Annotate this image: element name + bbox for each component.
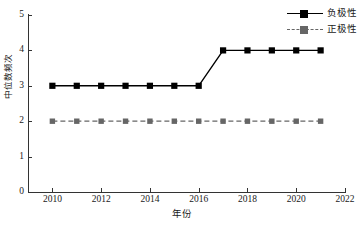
data-point	[50, 119, 55, 124]
data-point	[74, 83, 80, 89]
data-point	[244, 47, 250, 53]
legend-item-negative-polarity[interactable]: 负极性	[287, 8, 357, 19]
legend-label-negative-polarity: 负极性	[327, 8, 357, 19]
chart-legend: 负极性 正极性	[287, 8, 357, 35]
legend-swatch-positive-polarity	[287, 24, 323, 35]
data-point	[269, 47, 275, 53]
data-point	[122, 83, 128, 89]
data-point	[172, 119, 177, 124]
data-series-layer	[0, 0, 363, 234]
data-point	[318, 47, 324, 53]
data-point	[171, 83, 177, 89]
data-point	[147, 119, 152, 124]
series-positive-polarity	[50, 119, 324, 124]
data-point	[123, 119, 128, 124]
data-point	[147, 83, 153, 89]
data-point	[74, 119, 79, 124]
data-point	[49, 83, 55, 89]
data-point	[318, 119, 323, 124]
legend-item-positive-polarity[interactable]: 正极性	[287, 24, 357, 35]
series-line	[52, 50, 320, 85]
data-point	[220, 47, 226, 53]
data-point	[98, 83, 104, 89]
data-point	[245, 119, 250, 124]
data-point	[196, 83, 202, 89]
series-negative-polarity	[49, 47, 323, 89]
data-point	[98, 119, 103, 124]
data-point	[294, 119, 299, 124]
legend-swatch-negative-polarity	[287, 8, 323, 19]
legend-label-positive-polarity: 正极性	[327, 24, 357, 35]
data-point	[220, 119, 225, 124]
chart-figure: 012345 2010201220142016201820202022 中位数频…	[0, 0, 363, 234]
data-point	[293, 47, 299, 53]
data-point	[269, 119, 274, 124]
data-point	[196, 119, 201, 124]
